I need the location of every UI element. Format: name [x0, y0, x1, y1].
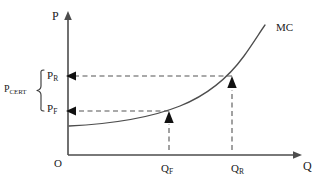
quantity-low-subscript: F: [169, 167, 173, 176]
price-low-subscript: F: [53, 107, 57, 116]
x-axis-label: Q: [303, 160, 312, 172]
vline-qf-arrow-icon: [164, 111, 173, 123]
diagram-svg: [0, 0, 320, 187]
x-axis-arrow-icon: [293, 151, 302, 159]
quantity-high-subscript: R: [239, 167, 244, 176]
vline-qr-arrow-icon: [227, 76, 236, 88]
mc-curve-label: MC: [276, 22, 293, 33]
quantity-high-label: QR: [231, 163, 244, 174]
pcert-brace: [37, 70, 44, 111]
y-axis-label: P: [52, 10, 59, 22]
brace-path: [37, 70, 44, 111]
quantity-high-symbol: Q: [231, 162, 239, 174]
price-low-label: PF: [47, 103, 57, 114]
axis-group: [64, 11, 302, 159]
price-cert-subscript: CERT: [10, 88, 27, 95]
quantity-low-symbol: Q: [161, 162, 169, 174]
y-axis-arrow-icon: [64, 11, 72, 20]
price-cert-label: PCERT: [4, 84, 27, 94]
diagram-canvas: P Q O MC PR PF PCERT QF QR: [0, 0, 320, 187]
origin-label: O: [54, 158, 62, 169]
quantity-low-label: QF: [161, 163, 173, 174]
price-high-label: PR: [47, 70, 58, 81]
price-high-subscript: R: [53, 74, 58, 83]
price-cert-symbol: P: [4, 83, 10, 94]
